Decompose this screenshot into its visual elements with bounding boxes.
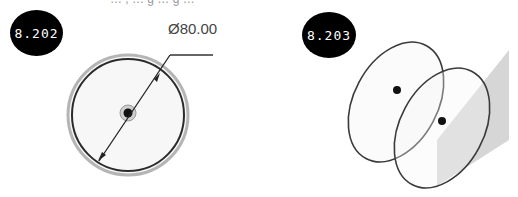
center-point-1[interactable]: [393, 86, 401, 94]
figure-8-203: 8.203: [259, 0, 518, 197]
figure-badge: 8.202: [10, 10, 63, 56]
ellipses-plane-diagram: [259, 0, 518, 197]
diameter-dimension-label[interactable]: Ø80.00: [168, 20, 217, 37]
center-point-2[interactable]: [438, 117, 446, 125]
badge-label: 8.203: [307, 28, 351, 43]
badge-label: 8.202: [14, 26, 58, 41]
figure-badge: 8.203: [302, 12, 356, 58]
figure-8-202: 8.202 Ø80.00: [0, 0, 259, 197]
